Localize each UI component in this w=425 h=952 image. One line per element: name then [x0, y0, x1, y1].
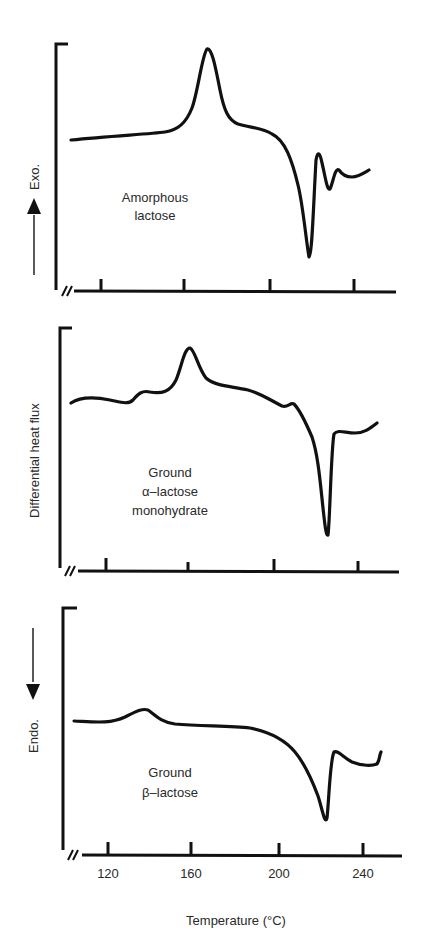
- exo-indicator: Exo.: [27, 164, 42, 275]
- panel-label-line1: Ground: [148, 765, 191, 780]
- panel-label-line2: α–lactose: [142, 484, 198, 499]
- arrow-up-icon: [27, 198, 41, 214]
- y-axis-bracket: [63, 608, 77, 850]
- x-ticks: [101, 279, 354, 291]
- panel-label-line1: Amorphous: [122, 190, 189, 205]
- y-axis-bracket: [56, 44, 68, 290]
- x-ticks: [108, 842, 363, 855]
- panel-beta-lactose: Ground β–lactose 120 160 200 240: [63, 608, 402, 881]
- dsc-figure: Amorphous lactose Exo. Ground α–lactose …: [0, 0, 425, 952]
- x-tick-label-240: 240: [352, 866, 374, 881]
- x-ticks: [106, 558, 358, 571]
- x-tick-label-200: 200: [268, 866, 290, 881]
- dsc-curve-beta-lactose: [74, 709, 381, 820]
- panel-amorphous-lactose: Amorphous lactose: [56, 44, 396, 296]
- x-axis: [74, 291, 396, 292]
- panel-label-line2: lactose: [134, 208, 175, 223]
- endo-indicator: Endo.: [26, 628, 41, 753]
- x-tick-label-160: 160: [180, 866, 202, 881]
- dsc-curve-alpha-monohydrate: [71, 348, 377, 535]
- x-axis: [82, 855, 402, 856]
- arrow-down-icon: [26, 684, 40, 700]
- dsc-curve-amorphous: [71, 49, 369, 257]
- panel-label-line3: monohydrate: [132, 503, 208, 518]
- x-axis: [78, 571, 399, 572]
- axis-break-icon: [62, 286, 72, 296]
- panel-label-line1: Ground: [148, 465, 191, 480]
- x-tick-label-120: 120: [97, 866, 119, 881]
- y-axis-bracket: [60, 328, 72, 568]
- axis-break-icon: [68, 850, 78, 860]
- x-axis-label: Temperature (°C): [186, 913, 286, 928]
- endo-label: Endo.: [26, 719, 41, 753]
- exo-label: Exo.: [27, 164, 42, 190]
- y-axis-label: Differential heat flux: [27, 403, 42, 518]
- panel-label-line2: β–lactose: [142, 785, 198, 800]
- axis-break-icon: [65, 566, 75, 576]
- panel-alpha-lactose-monohydrate: Ground α–lactose monohydrate: [60, 328, 399, 576]
